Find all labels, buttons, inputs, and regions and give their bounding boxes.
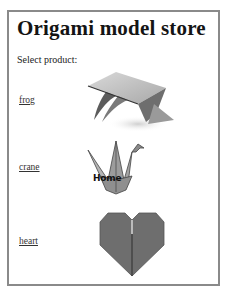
home-overlay-label[interactable]: Home (93, 173, 121, 183)
product-link-heart[interactable]: heart (19, 236, 38, 246)
frog-image[interactable] (86, 66, 180, 134)
heart-image[interactable] (99, 212, 165, 278)
crane-image[interactable] (86, 140, 150, 198)
page-title: Origami model store (17, 16, 206, 41)
product-link-frog[interactable]: frog (19, 95, 35, 105)
product-link-crane[interactable]: crane (19, 162, 40, 172)
select-product-label: Select product: (17, 54, 77, 65)
